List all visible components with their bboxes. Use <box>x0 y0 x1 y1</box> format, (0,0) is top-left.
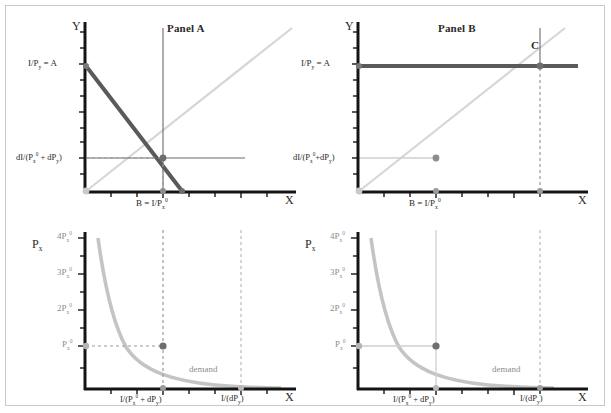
panel-b-ytick-3px: 3Px0 <box>330 266 345 279</box>
panel-b-point-c-label: C <box>531 39 539 51</box>
panel-b-y-intercept-label: I/Py = A <box>301 58 330 70</box>
panel-a-upper-svg <box>0 0 305 215</box>
panel-a-ytick-4px: 4Px0 <box>57 230 72 243</box>
panel-b-ytick-2px: 2Px0 <box>330 302 345 315</box>
marker-origin <box>83 188 90 195</box>
figure-root: Panel A Y X I/Py = A dI/(Px0 + dPy) B = … <box>0 0 611 413</box>
panel-b-upper-chart: Panel B Y X I/Py = A dI/(Px0+dPy) B = I/… <box>306 0 611 215</box>
marker-qty-left <box>433 385 439 391</box>
panel-a-lower-chart: Px X 4Px0 3Px0 2Px0 Px0 demand I/(Px0 + … <box>0 212 305 412</box>
ray-45-line <box>358 28 565 192</box>
marker-intersection <box>160 155 167 162</box>
panel-b-lower-svg <box>306 212 611 412</box>
panel-b-lower-x-axis-label: X <box>578 390 587 405</box>
marker-y-intercept <box>356 63 362 69</box>
marker-point-c <box>537 63 544 70</box>
panel-a-price-axis-label: Px <box>32 237 42 253</box>
demand-curve <box>371 238 554 388</box>
panel-b-price-axis-label: Px <box>305 237 315 253</box>
marker-x-b <box>433 188 439 194</box>
marker-ray-point <box>433 155 440 162</box>
panel-a-ytick-3px: 3Px0 <box>57 266 72 279</box>
marker-qty-right <box>238 385 244 391</box>
marker-qty-left <box>160 385 166 391</box>
panel-a-upper-chart: Panel A Y X I/Py = A dI/(Px0 + dPy) B = … <box>0 0 305 215</box>
panel-a-lower-x-axis-label: X <box>285 390 294 405</box>
panel-b-lower-chart: Px X 4Px0 3Px0 2Px0 Px0 demand I/(Px0 + … <box>306 212 611 412</box>
panel-b-y-second-label: dI/(Px0+dPy) <box>293 151 335 164</box>
panel-b-title: Panel B <box>438 22 476 34</box>
panel-b-y-axis-label: Y <box>345 19 354 34</box>
panel-b-ytick-px: Px0 <box>335 338 346 351</box>
budget-constraint-line <box>86 66 182 191</box>
panel-b-xtick-right: I/(dPy) <box>520 393 542 405</box>
marker-price-axis <box>83 343 89 349</box>
marker-price-axis <box>356 343 362 349</box>
panel-a-ytick-px: Px0 <box>62 338 73 351</box>
panel-a-y-axis-label: Y <box>72 19 81 34</box>
panel-a-y-second-label: dI/(Px0 + dPy) <box>16 151 62 164</box>
ray-45-line <box>85 28 292 192</box>
marker-x-c <box>537 188 543 194</box>
panel-a-xtick-left: I/(Px0 + dPy) <box>120 393 162 406</box>
marker-y-intercept <box>83 63 89 69</box>
panel-a-x-intercept-label: B = I/Px0 <box>136 197 168 210</box>
marker-demand-point <box>159 342 166 349</box>
marker-demand-point <box>432 342 439 349</box>
panel-a-ytick-2px: 2Px0 <box>57 302 72 315</box>
panel-b-demand-label: demand <box>492 364 521 374</box>
marker-x-intercept <box>179 188 185 194</box>
panel-a-y-intercept-label: I/Py = A <box>28 58 57 70</box>
panel-a-lower-svg <box>0 212 305 412</box>
panel-a-demand-label: demand <box>189 364 218 374</box>
marker-x-b <box>160 188 166 194</box>
marker-qty-right <box>537 385 543 391</box>
panel-a-title: Panel A <box>167 22 205 34</box>
panel-a-x-axis-label: X <box>285 193 294 208</box>
marker-origin <box>356 188 363 195</box>
panel-b-x-axis-label: X <box>578 193 587 208</box>
panel-b-xtick-left: I/(Px0 + dPy) <box>393 393 435 406</box>
panel-b-x-intercept-label: B = I/Px0 <box>409 197 441 210</box>
panel-a-xtick-right: I/(dPy) <box>221 393 243 405</box>
panel-b-ytick-4px: 4Px0 <box>330 230 345 243</box>
